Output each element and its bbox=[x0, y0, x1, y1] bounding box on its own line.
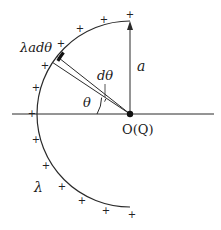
plus-charge-icon: + bbox=[58, 182, 66, 192]
theta-arc bbox=[97, 98, 102, 114]
dtheta-label: dθ bbox=[97, 69, 113, 82]
radius-arrowhead-icon bbox=[127, 21, 133, 30]
plus-charge-icon: + bbox=[28, 109, 36, 119]
element-ray-upper bbox=[57, 57, 130, 115]
origin-point bbox=[127, 111, 133, 117]
plus-charge-icon: + bbox=[128, 210, 136, 220]
diagram-canvas: + + + + + + + + + + + + + λadθ dθ θ a O(… bbox=[0, 0, 221, 230]
lambda-pointer bbox=[44, 175, 46, 181]
plus-charge-icon: + bbox=[42, 161, 50, 171]
theta-label: θ bbox=[83, 96, 91, 109]
plus-charge-icon: + bbox=[41, 61, 49, 71]
origin-label: O(Q) bbox=[122, 123, 153, 136]
lambda-label: λ bbox=[34, 180, 43, 194]
plus-charge-icon: + bbox=[76, 24, 84, 34]
dtheta-arc bbox=[105, 99, 106, 102]
plus-charge-icon: + bbox=[102, 206, 110, 216]
plus-charge-icon: + bbox=[57, 39, 65, 49]
element-charge-label: λadθ bbox=[20, 41, 52, 54]
plus-charge-icon: + bbox=[78, 196, 86, 206]
plus-charge-icon: + bbox=[32, 83, 40, 93]
element-ray-lower bbox=[53, 63, 130, 114]
plus-charge-icon: + bbox=[32, 135, 40, 145]
radius-label: a bbox=[137, 59, 145, 73]
plus-charge-icon: + bbox=[126, 10, 134, 20]
plus-charge-icon: + bbox=[100, 15, 108, 25]
